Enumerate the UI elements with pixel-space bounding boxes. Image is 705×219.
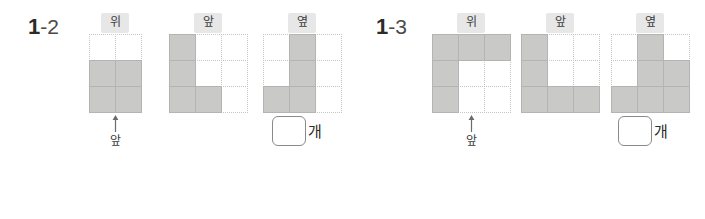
answer-row: 개 xyxy=(618,116,668,146)
grid-top xyxy=(432,34,510,112)
grid-cell-filled xyxy=(521,86,548,113)
front-direction-label: 앞 xyxy=(95,134,135,148)
grid-cell-filled xyxy=(663,60,690,87)
grid-cell-filled xyxy=(663,86,690,113)
grid-cell-filled xyxy=(432,34,459,61)
grid-cell-filled xyxy=(89,86,116,113)
grid-cell-empty xyxy=(547,60,574,87)
answer-unit-label: 개 xyxy=(654,124,668,139)
grid-cell-filled xyxy=(195,86,222,113)
grid-cell-empty xyxy=(221,60,248,87)
grid-cell-empty xyxy=(315,34,342,61)
grid-cell-filled xyxy=(289,34,316,61)
view-front: 앞 xyxy=(510,12,610,112)
grid-cell-empty xyxy=(611,34,638,61)
grid-cell-empty xyxy=(221,86,248,113)
grid-cell-empty xyxy=(484,60,511,87)
grid-front xyxy=(169,34,247,112)
grid-side xyxy=(611,34,689,112)
front-direction-marker: 앞 xyxy=(95,115,135,148)
grid-cell-empty xyxy=(573,60,600,87)
grid-cell-empty xyxy=(611,60,638,87)
view-label-front: 앞 xyxy=(194,13,222,33)
grid-cell-empty xyxy=(263,60,290,87)
answer-row: 개 xyxy=(272,116,322,146)
view-top: 위 xyxy=(420,12,522,112)
grid-cell-filled xyxy=(521,60,548,87)
problem-number-major: 1 xyxy=(376,14,388,39)
grid-cell-empty xyxy=(458,60,485,87)
grid-cell-empty xyxy=(573,34,600,61)
problem-1-2: 1-2 위 앞 옆 앞 개 xyxy=(0,0,353,160)
grid-cell-filled xyxy=(637,34,664,61)
problem-number-minor: -3 xyxy=(388,15,407,38)
grid-cell-filled xyxy=(432,60,459,87)
view-side: 옆 xyxy=(252,12,352,112)
grid-cell-filled xyxy=(611,86,638,113)
view-label-front: 앞 xyxy=(546,13,574,33)
problem-number-minor: -2 xyxy=(40,15,59,38)
answer-input[interactable] xyxy=(618,116,652,146)
grid-cell-filled xyxy=(521,34,548,61)
view-label-top: 위 xyxy=(101,13,129,33)
grid-side xyxy=(263,34,341,112)
grid-cell-empty xyxy=(221,34,248,61)
view-label-side: 옆 xyxy=(288,13,316,33)
problem-number: 1-2 xyxy=(28,14,59,40)
grid-cell-empty xyxy=(315,86,342,113)
grid-cell-filled xyxy=(484,34,511,61)
front-direction-label: 앞 xyxy=(451,134,491,148)
grid-cell-filled xyxy=(115,86,142,113)
grid-cell-empty xyxy=(195,60,222,87)
view-label-side: 옆 xyxy=(636,13,664,33)
grid-cell-filled xyxy=(89,60,116,87)
grid-cell-filled xyxy=(637,86,664,113)
answer-input[interactable] xyxy=(272,116,306,146)
grid-front xyxy=(521,34,599,112)
grid-cell-empty xyxy=(263,34,290,61)
arrow-up-icon xyxy=(466,115,477,133)
grid-cell-empty xyxy=(115,34,142,61)
grid-cell-empty xyxy=(458,86,485,113)
grid-cell-filled xyxy=(458,34,485,61)
grid-cell-filled xyxy=(169,60,196,87)
arrow-up-icon xyxy=(110,115,121,133)
grid-cell-filled xyxy=(263,86,290,113)
grid-cell-filled xyxy=(637,60,664,87)
grid-cell-filled xyxy=(573,86,600,113)
view-top: 위 xyxy=(78,12,152,112)
grid-cell-filled xyxy=(115,60,142,87)
front-direction-marker: 앞 xyxy=(451,115,491,148)
grid-cell-empty xyxy=(547,34,574,61)
grid-cell-filled xyxy=(169,86,196,113)
grid-cell-empty xyxy=(89,34,116,61)
problem-1-3: 1-3 위 앞 옆 앞 개 xyxy=(352,0,705,160)
grid-cell-filled xyxy=(547,86,574,113)
grid-cell-filled xyxy=(432,86,459,113)
problem-number-major: 1 xyxy=(28,14,40,39)
grid-cell-filled xyxy=(289,86,316,113)
grid-top xyxy=(89,34,141,112)
grid-cell-filled xyxy=(289,60,316,87)
grid-cell-empty xyxy=(484,86,511,113)
grid-cell-empty xyxy=(315,60,342,87)
grid-cell-empty xyxy=(663,34,690,61)
problem-number: 1-3 xyxy=(376,14,407,40)
view-front: 앞 xyxy=(158,12,258,112)
view-side: 옆 xyxy=(600,12,700,112)
grid-cell-empty xyxy=(195,34,222,61)
view-label-top: 위 xyxy=(457,13,485,33)
grid-cell-filled xyxy=(169,34,196,61)
answer-unit-label: 개 xyxy=(308,124,322,139)
